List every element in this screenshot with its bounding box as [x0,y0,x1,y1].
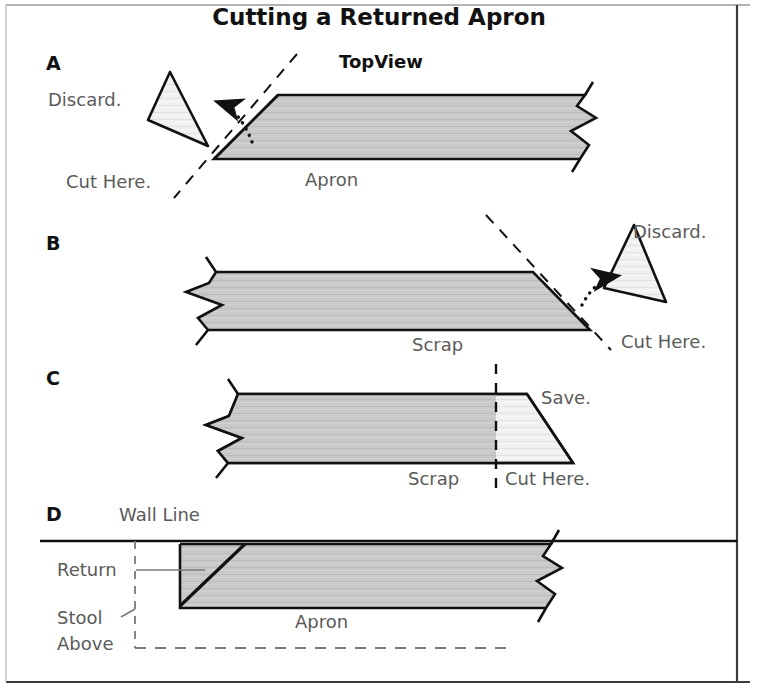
panel-d-wall-line-label: Wall Line [119,504,200,525]
panel-b-discard-label: Discard. [633,221,706,242]
panel-d-part-label: Apron [295,611,348,632]
panel-a-discard-label: Discard. [48,89,121,110]
panel-c-part-label: Scrap [408,468,459,489]
panel-d-return-label: Return [57,559,117,580]
panel-c-letter: C [46,367,60,389]
panel-c-cut-here-label: Cut Here. [505,468,590,489]
figure-subtitle: TopView [339,51,423,72]
panel-d-letter: D [46,503,62,525]
panel-a-discard-wedge [148,72,208,146]
figure-title: Cutting a Returned Apron [212,4,546,30]
panel-d-stool-label: Stool [57,607,103,628]
panel-a-letter: A [46,52,61,74]
panel-d-apron-fill [180,544,562,608]
panel-d: D Wall Line Return Stool Above Apron [40,503,737,654]
panel-a-cut-here-label: Cut Here. [66,171,151,192]
panel-b-letter: B [46,232,60,254]
panel-b-board [186,272,590,330]
panel-d-stool-leader [121,609,135,617]
panel-b: B Discard. Cut Here. Scrap [46,215,706,355]
panel-a-apron-board [214,95,596,159]
panel-c-save-label: Save. [541,387,591,408]
cutting-apron-diagram: Cutting a Returned Apron TopView A Disca… [0,0,758,695]
figure-page: Cutting a Returned Apron TopView A Disca… [0,0,758,695]
panel-b-cut-here-label: Cut Here. [621,331,706,352]
panel-a: A Discard. Cut Here. Apron [46,52,596,198]
panel-c: C Save. Cut Here. Scrap [46,364,591,490]
panel-c-scrap-region [206,394,496,463]
panel-d-above-label: Above [57,633,113,654]
panel-a-part-label: Apron [305,169,358,190]
panel-b-part-label: Scrap [412,334,463,355]
